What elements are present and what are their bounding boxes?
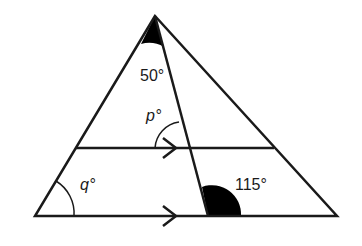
apex-angle-label: 50° — [140, 67, 164, 84]
q-angle-arc — [56, 181, 74, 216]
triangle-diagram: 50° p° q° 115° — [0, 0, 362, 246]
p-angle-arc — [155, 122, 179, 148]
bottom-angle-label: 115° — [235, 176, 267, 193]
p-angle-label: p° — [145, 107, 162, 124]
q-angle-label: q° — [80, 176, 96, 193]
